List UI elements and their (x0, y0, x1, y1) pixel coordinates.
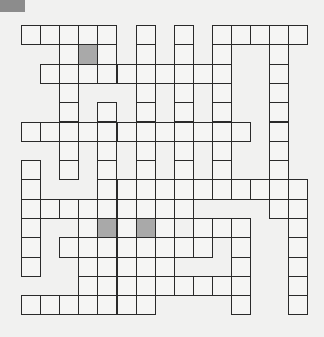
grid-cell[interactable] (269, 102, 289, 122)
grid-cell[interactable] (269, 44, 289, 64)
grid-cell[interactable] (174, 44, 194, 64)
grid-cell[interactable] (269, 141, 289, 161)
grid-cell[interactable] (212, 276, 232, 296)
grid-cell[interactable] (21, 237, 41, 257)
grid-cell[interactable] (288, 199, 308, 219)
grid-cell[interactable] (117, 179, 137, 199)
grid-cell[interactable] (78, 218, 98, 238)
grid-cell[interactable] (21, 160, 41, 180)
grid-cell[interactable] (155, 122, 175, 142)
grid-cell[interactable] (193, 122, 213, 142)
grid-cell[interactable] (269, 83, 289, 103)
grid-cell[interactable] (174, 237, 194, 257)
grid-cell[interactable] (97, 295, 117, 315)
grid-cell[interactable] (59, 44, 79, 64)
grid-cell[interactable] (174, 141, 194, 161)
grid-cell[interactable] (212, 218, 232, 238)
grid-cell[interactable] (136, 237, 156, 257)
grid-cell[interactable] (97, 257, 117, 277)
grid-cell[interactable] (193, 64, 213, 84)
grid-cell[interactable] (59, 199, 79, 219)
grid-cell[interactable] (21, 25, 41, 45)
grid-cell[interactable] (40, 295, 60, 315)
grid-cell[interactable] (117, 257, 137, 277)
grid-cell[interactable] (136, 25, 156, 45)
shaded-grid-cell[interactable] (136, 218, 156, 238)
grid-cell[interactable] (97, 25, 117, 45)
grid-cell[interactable] (59, 64, 79, 84)
grid-cell[interactable] (174, 83, 194, 103)
grid-cell[interactable] (212, 64, 232, 84)
shaded-grid-cell[interactable] (78, 44, 98, 64)
grid-cell[interactable] (78, 25, 98, 45)
grid-cell[interactable] (97, 199, 117, 219)
grid-cell[interactable] (288, 237, 308, 257)
grid-cell[interactable] (136, 141, 156, 161)
grid-cell[interactable] (231, 295, 251, 315)
grid-cell[interactable] (174, 25, 194, 45)
grid-cell[interactable] (155, 64, 175, 84)
grid-cell[interactable] (97, 276, 117, 296)
grid-cell[interactable] (288, 295, 308, 315)
grid-cell[interactable] (117, 295, 137, 315)
grid-cell[interactable] (117, 218, 137, 238)
grid-cell[interactable] (59, 83, 79, 103)
grid-cell[interactable] (231, 237, 251, 257)
grid-cell[interactable] (117, 64, 137, 84)
grid-cell[interactable] (155, 179, 175, 199)
grid-cell[interactable] (97, 44, 117, 64)
grid-cell[interactable] (212, 102, 232, 122)
grid-cell[interactable] (212, 25, 232, 45)
grid-cell[interactable] (212, 141, 232, 161)
grid-cell[interactable] (59, 141, 79, 161)
grid-cell[interactable] (155, 237, 175, 257)
grid-cell[interactable] (78, 64, 98, 84)
grid-cell[interactable] (136, 122, 156, 142)
grid-cell[interactable] (21, 179, 41, 199)
grid-cell[interactable] (288, 218, 308, 238)
grid-cell[interactable] (136, 64, 156, 84)
grid-cell[interactable] (78, 257, 98, 277)
grid-cell[interactable] (59, 295, 79, 315)
grid-cell[interactable] (59, 237, 79, 257)
grid-cell[interactable] (97, 122, 117, 142)
grid-cell[interactable] (78, 199, 98, 219)
grid-cell[interactable] (212, 179, 232, 199)
grid-cell[interactable] (231, 218, 251, 238)
grid-cell[interactable] (97, 102, 117, 122)
grid-cell[interactable] (21, 122, 41, 142)
grid-cell[interactable] (136, 276, 156, 296)
grid-cell[interactable] (174, 179, 194, 199)
grid-cell[interactable] (174, 276, 194, 296)
grid-cell[interactable] (136, 257, 156, 277)
grid-cell[interactable] (212, 83, 232, 103)
grid-cell[interactable] (40, 25, 60, 45)
grid-cell[interactable] (117, 276, 137, 296)
grid-cell[interactable] (97, 141, 117, 161)
grid-cell[interactable] (250, 179, 270, 199)
grid-cell[interactable] (174, 102, 194, 122)
grid-cell[interactable] (136, 44, 156, 64)
grid-cell[interactable] (269, 160, 289, 180)
grid-cell[interactable] (174, 199, 194, 219)
grid-cell[interactable] (97, 64, 117, 84)
grid-cell[interactable] (136, 83, 156, 103)
grid-cell[interactable] (117, 199, 137, 219)
grid-cell[interactable] (288, 179, 308, 199)
grid-cell[interactable] (59, 160, 79, 180)
grid-cell[interactable] (155, 276, 175, 296)
grid-cell[interactable] (117, 237, 137, 257)
grid-cell[interactable] (21, 199, 41, 219)
grid-cell[interactable] (155, 218, 175, 238)
grid-cell[interactable] (78, 295, 98, 315)
grid-cell[interactable] (97, 179, 117, 199)
grid-cell[interactable] (231, 276, 251, 296)
grid-cell[interactable] (78, 122, 98, 142)
grid-cell[interactable] (78, 237, 98, 257)
grid-cell[interactable] (231, 122, 251, 142)
grid-cell[interactable] (136, 295, 156, 315)
grid-cell[interactable] (155, 199, 175, 219)
grid-cell[interactable] (174, 160, 194, 180)
grid-cell[interactable] (288, 257, 308, 277)
grid-cell[interactable] (231, 257, 251, 277)
